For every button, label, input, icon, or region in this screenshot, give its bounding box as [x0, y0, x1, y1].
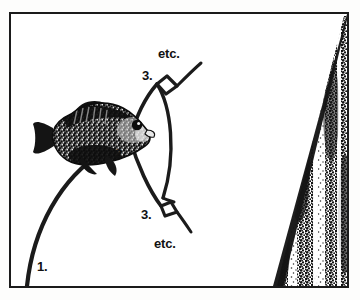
figure-frame: 1. 2. 3. 3. etc. etc.: [9, 12, 349, 288]
label-etc-lower: etc.: [154, 237, 176, 250]
line-connector-lower: [163, 198, 174, 202]
crappie-illustration: [33, 94, 158, 189]
label-step-1: 1.: [37, 260, 47, 273]
line-loop-inner: [157, 84, 171, 198]
line-tail-upper: [177, 63, 201, 86]
figure-canvas: 1. 2. 3. 3. etc. etc.: [0, 0, 360, 300]
fish-eye-highlight: [137, 122, 140, 125]
fish-tail: [33, 122, 54, 154]
label-step-2: 2.: [115, 147, 125, 160]
fish-eye: [132, 120, 142, 130]
line-loop-lower: [161, 202, 177, 216]
label-etc-upper: etc.: [158, 47, 180, 60]
label-step-3-lower: 3.: [141, 208, 151, 221]
line-tail-lower: [177, 212, 191, 232]
label-step-3-upper: 3.: [142, 69, 152, 82]
